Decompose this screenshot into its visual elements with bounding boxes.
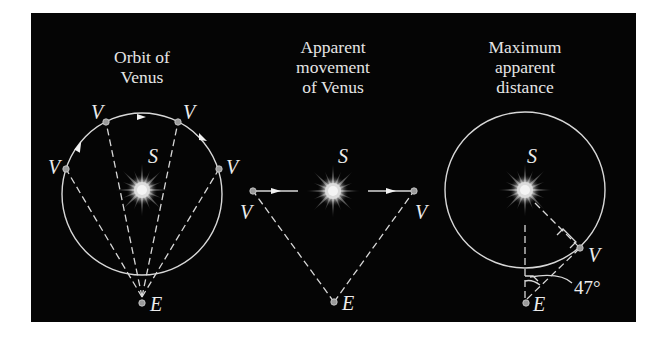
panel-title-line: of Venus: [302, 77, 364, 97]
orbit-direction-arrow-icon: [137, 114, 146, 120]
venus-point: [216, 166, 222, 172]
sight-line: [334, 191, 414, 302]
sun-venus-line: [535, 203, 580, 248]
sight-line: [253, 191, 334, 302]
venus-point: [175, 119, 181, 125]
venus-label: V: [240, 201, 255, 223]
panel-title-line: Venus: [121, 67, 164, 87]
sight-line: [106, 122, 142, 297]
orbit-direction-arrow-icon: [199, 133, 207, 141]
right-angle-marker: [557, 229, 576, 248]
angle-label: 47°: [574, 277, 601, 298]
panel-title-line: distance: [496, 77, 554, 97]
sun-label: S: [338, 145, 348, 167]
panel-title-line: movement: [296, 57, 370, 77]
venus-point: [103, 119, 109, 125]
sun-label: S: [148, 145, 158, 167]
movement-arrow-icon: [386, 188, 396, 194]
panel-title-line: Maximum: [489, 37, 562, 57]
apparent-movement-panel: Apparent movement of Venus S V V E: [240, 37, 430, 314]
orbit-direction-arrow-icon: [73, 141, 82, 153]
panel-title-line: apparent: [495, 57, 555, 77]
venus-label: V: [226, 156, 241, 178]
earth-venus-line: [527, 248, 580, 299]
sun-label: S: [527, 145, 537, 167]
venus-point: [577, 245, 583, 251]
venus-diagram: Orbit of Venus S V V V V E Apparent move…: [0, 0, 648, 342]
earth-label: E: [149, 293, 162, 315]
venus-label: V: [48, 156, 63, 178]
venus-label: V: [588, 244, 603, 266]
earth-point: [331, 299, 337, 305]
maximum-apparent-distance-panel: Maximum apparent distance S V E 47°: [445, 37, 605, 315]
venus-label: V: [415, 201, 430, 223]
movement-arrow-icon: [271, 188, 281, 194]
panel-title-line: Apparent: [300, 37, 365, 57]
panel-title-line: Orbit of: [114, 47, 170, 67]
venus-label: V: [183, 101, 198, 123]
orbit-of-venus-panel: Orbit of Venus S V V V V E: [48, 47, 241, 315]
earth-point: [139, 300, 145, 306]
sun-icon: [114, 162, 170, 218]
venus-point: [250, 188, 256, 194]
sun-icon: [305, 163, 361, 219]
earth-label: E: [341, 292, 354, 314]
sun-icon: [497, 162, 553, 218]
venus-point: [411, 188, 417, 194]
earth-label: E: [532, 293, 545, 315]
venus-point: [63, 166, 69, 172]
earth-point: [523, 300, 529, 306]
